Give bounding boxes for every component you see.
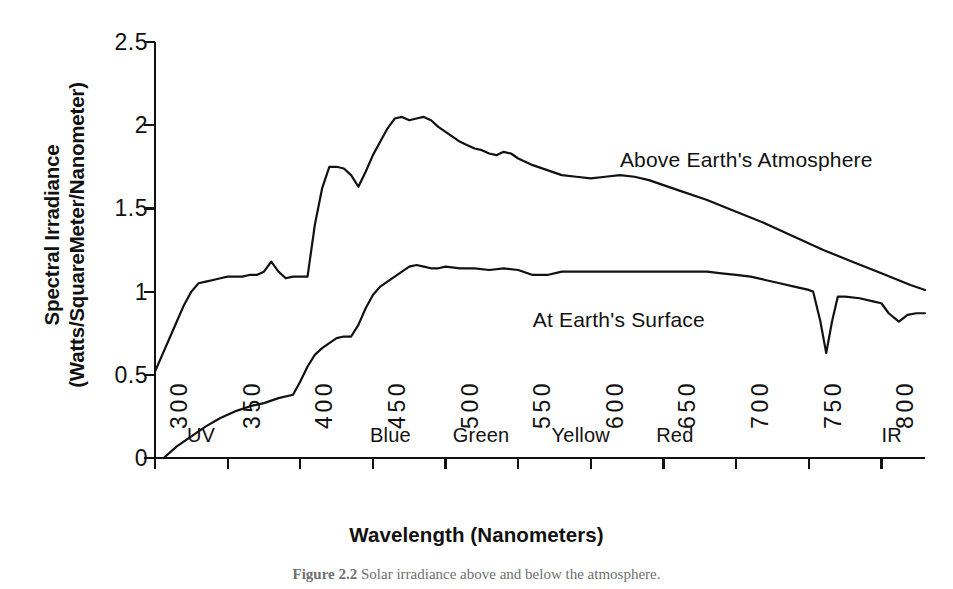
series-annotation: Above Earth's Atmosphere — [620, 148, 873, 172]
band-label-ir: IR — [881, 424, 901, 447]
figure-root: Spectral Irradiance (Watts/SquareMeter/N… — [0, 0, 953, 589]
x-axis-title: Wavelength (Nanometers) — [0, 523, 953, 547]
band-label-red: Red — [656, 424, 693, 447]
band-label-blue: Blue — [370, 424, 411, 447]
x-tick-label: 400 — [311, 380, 338, 470]
x-tick-label: 750 — [820, 380, 847, 470]
figure-caption-text: Solar irradiance above and below the atm… — [361, 566, 660, 582]
x-tick-label: 350 — [239, 380, 266, 470]
band-label-green: Green — [453, 424, 510, 447]
series-annotation: At Earth's Surface — [533, 308, 705, 332]
x-tick-label: 700 — [747, 380, 774, 470]
figure-caption-number: Figure 2.2 — [293, 566, 358, 582]
band-label-yellow: Yellow — [552, 424, 610, 447]
figure-caption: Figure 2.2 Solar irradiance above and be… — [0, 566, 953, 583]
band-label-uv: UV — [187, 424, 215, 447]
x-axis-tick-labels: 300350400450500550600650700750800 — [0, 0, 953, 589]
